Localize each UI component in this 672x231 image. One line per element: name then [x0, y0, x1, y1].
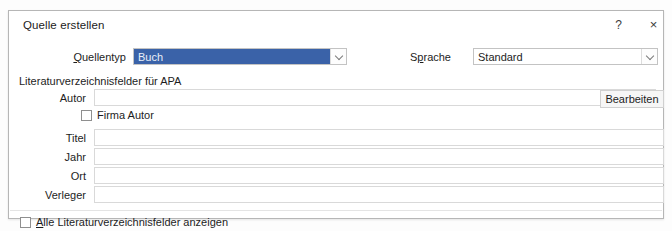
alle-felder-checkbox[interactable] [20, 217, 31, 228]
verleger-input[interactable] [94, 186, 664, 203]
help-button[interactable]: ? [609, 16, 628, 34]
firma-autor-checkbox[interactable] [81, 110, 92, 121]
dialog-body: Quellentyp Buch Sprache Standard Literat… [9, 38, 663, 218]
jahr-input[interactable] [94, 148, 664, 165]
dialog-titlebar: Quelle erstellen ? × [9, 11, 663, 38]
bibliography-fields-caption: Literaturverzeichnisfelder für APA [19, 75, 181, 87]
firma-autor-checkbox-row[interactable]: Firma Autor [81, 109, 154, 121]
sprache-label: Sprache [389, 51, 451, 63]
dialog-title: Quelle erstellen [23, 19, 105, 31]
alle-felder-checkbox-row[interactable]: Alle Literaturverzeichnisfelder anzeigen [20, 216, 228, 228]
chevron-down-icon[interactable] [330, 49, 346, 64]
quellentyp-combobox[interactable]: Buch [133, 48, 347, 65]
quellentyp-value: Buch [134, 49, 330, 64]
quellentyp-label: Quellentyp [49, 51, 126, 63]
bearbeiten-button[interactable]: Bearbeiten [600, 90, 664, 108]
quellentyp-label-text: uellentyp [82, 51, 126, 63]
titel-input[interactable] [94, 129, 664, 146]
titel-label: Titel [29, 132, 86, 144]
alle-felder-label: Alle Literaturverzeichnisfelder anzeigen [36, 216, 228, 228]
quellentyp-label-accel: Q [73, 51, 82, 63]
autor-input[interactable] [94, 89, 656, 106]
verleger-label: Verleger [29, 189, 86, 201]
autor-label: Autor [29, 92, 86, 104]
alle-felder-label-text: lle Literaturverzeichnisfelder anzeigen [43, 216, 228, 228]
ort-label: Ort [29, 170, 86, 182]
close-button[interactable]: × [644, 16, 663, 34]
create-source-dialog: Quelle erstellen ? × Quellentyp Buch Spr… [8, 10, 664, 219]
ort-input[interactable] [94, 167, 664, 184]
sprache-combobox[interactable]: Standard [473, 48, 658, 65]
sprache-label-text: rache [423, 51, 451, 63]
chevron-down-icon[interactable] [641, 49, 657, 64]
firma-autor-label: Firma Autor [97, 109, 154, 121]
sprache-value: Standard [474, 49, 641, 64]
jahr-label: Jahr [29, 151, 86, 163]
bottom-separator [10, 210, 662, 211]
